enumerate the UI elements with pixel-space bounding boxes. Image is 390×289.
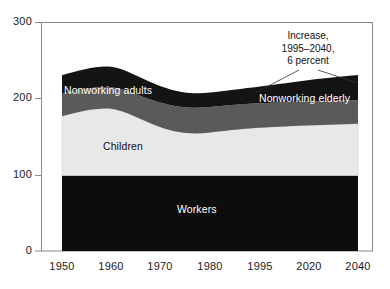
x-tick-label-1980: 1980 [185, 260, 235, 272]
band-label-nonworking-adults: Nonworking adults [64, 84, 152, 96]
stacked-area-chart: 300 200 100 0 1950 1960 1970 1980 1995 2… [0, 0, 390, 289]
x-tick-label-1995: 1995 [235, 260, 285, 272]
x-tick-label-1960: 1960 [86, 260, 136, 272]
band-label-children: Children [103, 140, 143, 152]
x-tick-label-2020: 2020 [284, 260, 334, 272]
annotation-line-2: 1995–2040, [258, 43, 358, 56]
x-tick-label-1970: 1970 [135, 260, 185, 272]
band-label-nonworking-elderly: Nonworking elderly [259, 92, 350, 104]
increase-annotation: Increase, 1995–2040, 6 percent [258, 30, 358, 68]
y-tick-label-300: 300 [2, 15, 32, 27]
y-tick-label-0: 0 [2, 244, 32, 256]
x-tick-label-2040: 2040 [333, 260, 383, 272]
band-label-workers: Workers [177, 203, 217, 215]
y-tick-label-200: 200 [2, 91, 32, 103]
annotation-line-3: 6 percent [258, 55, 358, 68]
y-axis-ticks [35, 23, 42, 252]
annotation-line-1: Increase, [258, 30, 358, 43]
x-tick-label-1950: 1950 [37, 260, 87, 272]
y-tick-label-100: 100 [2, 168, 32, 180]
